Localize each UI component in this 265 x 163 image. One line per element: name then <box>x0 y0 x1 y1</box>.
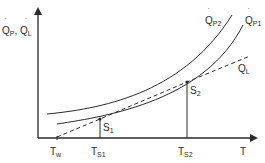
tick-ts2: TS2 <box>178 146 193 158</box>
dot-qp1: ˙ <box>248 7 251 16</box>
y-dot-1: ˙ <box>5 17 8 26</box>
label-qp2: QP2 <box>205 15 221 27</box>
y-dot-2: ˙ <box>25 17 28 26</box>
dot-ql: ˙ <box>241 55 244 64</box>
label-s2: S2 <box>190 85 201 97</box>
label-ql: QL <box>238 63 250 75</box>
tick-ts1: TS1 <box>91 146 106 158</box>
tick-tw: Tw <box>50 146 62 158</box>
dot-qp2: ˙ <box>208 7 211 16</box>
x-axis-label: T <box>240 146 246 157</box>
label-qp1: QP1 <box>245 15 261 27</box>
semenov-diagram: QP, QL ˙ ˙ QP2 ˙ QP1 ˙ QL ˙ S1 S2 Tw TS1… <box>0 0 265 163</box>
curve-qp2 <box>47 15 232 114</box>
diagram-svg: QP, QL ˙ ˙ QP2 ˙ QP1 ˙ QL ˙ S1 S2 Tw TS1… <box>0 0 265 163</box>
line-ql <box>57 56 250 137</box>
point-s1 <box>98 117 101 120</box>
point-s2 <box>185 80 188 83</box>
y-axis-label: QP, QL <box>2 25 32 37</box>
label-s1: S1 <box>103 122 114 134</box>
